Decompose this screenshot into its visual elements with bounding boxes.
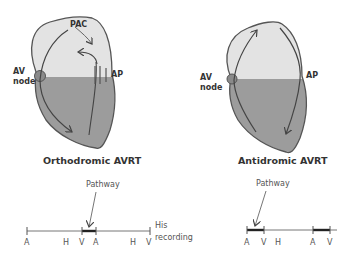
marker-h: H xyxy=(275,238,281,247)
pathway-label: Pathway xyxy=(256,179,290,188)
marker-a: A xyxy=(93,238,99,247)
antidromic-heart-diagram: AV node AP Antidromic AVRT xyxy=(200,22,328,166)
pathway-label: Pathway xyxy=(86,180,120,189)
pathway-arrow xyxy=(255,191,266,226)
orthodromic-his-timeline: Pathway A H V A H V His recording xyxy=(24,180,193,247)
marker-v: V xyxy=(327,238,333,247)
orthodromic-title: Orthodromic AVRT xyxy=(43,155,142,166)
orthodromic-heart-diagram: PAC AV node AP Orthodromic AVRT xyxy=(13,17,142,166)
av-node-label: node xyxy=(200,83,223,92)
av-node-label: AV xyxy=(13,67,26,76)
marker-h: H xyxy=(63,238,69,247)
recording-label: recording xyxy=(155,233,193,242)
marker-v: V xyxy=(79,238,85,247)
av-node-label: AV xyxy=(200,73,213,82)
marker-a: A xyxy=(24,238,30,247)
antidromic-his-timeline: Pathway A V H A V xyxy=(244,179,337,247)
pac-label: PAC xyxy=(70,20,87,29)
marker-v: V xyxy=(261,238,267,247)
antidromic-title: Antidromic AVRT xyxy=(238,155,328,166)
marker-a: A xyxy=(244,238,250,247)
marker-v: V xyxy=(146,238,152,247)
av-node-label: node xyxy=(13,77,36,86)
marker-h: H xyxy=(130,238,136,247)
ap-label: AP xyxy=(306,71,318,80)
pathway-arrow xyxy=(89,192,96,227)
av-node-shape xyxy=(227,74,237,84)
his-label: His xyxy=(155,221,167,230)
marker-a: A xyxy=(310,238,316,247)
ap-label: AP xyxy=(111,70,123,79)
